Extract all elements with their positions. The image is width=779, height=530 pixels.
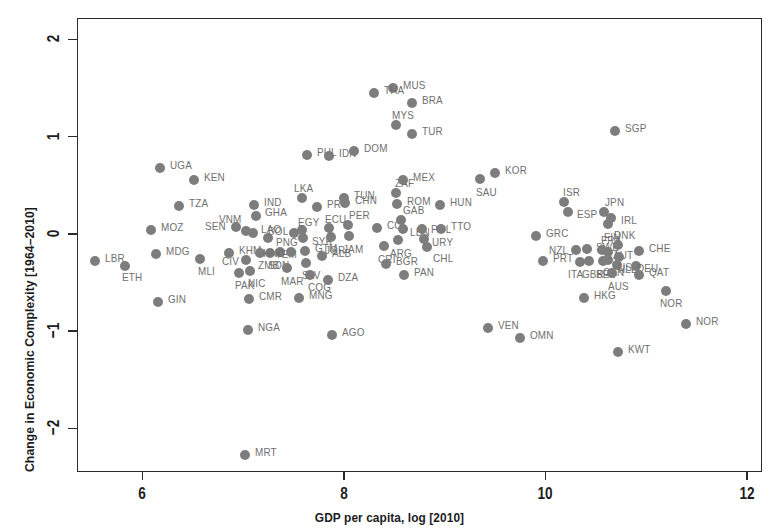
scatter-point[interactable] — [294, 293, 304, 303]
scatter-point[interactable] — [240, 450, 250, 460]
scatter-point-label: GRC — [546, 228, 568, 240]
scatter-point[interactable] — [195, 254, 205, 264]
scatter-point[interactable] — [301, 258, 311, 268]
scatter-point[interactable] — [606, 213, 616, 223]
scatter-point[interactable] — [340, 198, 350, 208]
scatter-point-label: MEX — [413, 172, 435, 184]
scatter-point[interactable] — [422, 242, 432, 252]
scatter-point[interactable] — [349, 146, 359, 156]
scatter-point[interactable] — [297, 193, 307, 203]
scatter-point[interactable] — [327, 330, 337, 340]
scatter-point[interactable] — [151, 249, 161, 259]
scatter-point-label: PAN — [414, 267, 434, 279]
scatter-point[interactable] — [344, 231, 354, 241]
scatter-point-label: LKA — [294, 183, 313, 195]
scatter-point[interactable] — [393, 235, 403, 245]
scatter-point[interactable] — [249, 200, 259, 210]
scatter-point[interactable] — [584, 256, 594, 266]
scatter-point-label: URY — [432, 237, 453, 249]
scatter-point[interactable] — [286, 247, 296, 257]
scatter-point[interactable] — [120, 261, 130, 271]
scatter-point[interactable] — [174, 201, 184, 211]
scatter-point[interactable] — [300, 246, 310, 256]
scatter-point-label: CHE — [649, 243, 670, 255]
scatter-point[interactable] — [661, 286, 671, 296]
scatter-point[interactable] — [251, 211, 261, 221]
scatter-point[interactable] — [189, 175, 199, 185]
x-tick-mark — [343, 472, 344, 480]
y-tick-label: 0 — [45, 225, 62, 241]
scatter-point-label: KEN — [204, 172, 225, 184]
scatter-point[interactable] — [634, 270, 644, 280]
scatter-point[interactable] — [298, 233, 308, 243]
scatter-point[interactable] — [559, 197, 569, 207]
scatter-point[interactable] — [563, 207, 573, 217]
scatter-point[interactable] — [90, 256, 100, 266]
y-tick-label: −1 — [45, 323, 62, 339]
scatter-point[interactable] — [155, 163, 165, 173]
scatter-point[interactable] — [146, 225, 156, 235]
scatter-point[interactable] — [407, 129, 417, 139]
scatter-point-label: VNM — [219, 214, 241, 226]
scatter-point[interactable] — [244, 294, 254, 304]
scatter-point[interactable] — [241, 255, 251, 265]
scatter-point[interactable] — [483, 323, 493, 333]
scatter-point[interactable] — [245, 266, 255, 276]
scatter-point[interactable] — [399, 270, 409, 280]
scatter-point[interactable] — [436, 224, 446, 234]
scatter-point[interactable] — [248, 228, 258, 238]
scatter-point[interactable] — [613, 347, 623, 357]
scatter-point[interactable] — [153, 297, 163, 307]
scatter-point[interactable] — [531, 231, 541, 241]
scatter-point[interactable] — [312, 202, 322, 212]
scatter-point[interactable] — [379, 241, 389, 251]
scatter-point[interactable] — [582, 244, 592, 254]
scatter-point-label: MRT — [255, 447, 277, 459]
scatter-point-label: MAR — [281, 276, 303, 288]
scatter-point[interactable] — [579, 293, 589, 303]
scatter-point[interactable] — [435, 200, 445, 210]
scatter-point-label: PER — [349, 210, 370, 222]
scatter-point[interactable] — [398, 224, 408, 234]
scatter-point[interactable] — [234, 268, 244, 278]
scatter-point[interactable] — [610, 126, 620, 136]
scatter-point-label: MLI — [198, 266, 215, 278]
scatter-point[interactable] — [282, 263, 292, 273]
y-tick-label: 1 — [45, 128, 62, 144]
scatter-point[interactable] — [381, 259, 391, 269]
scatter-point-label: DZA — [338, 272, 358, 284]
scatter-point-label: EGY — [298, 217, 319, 229]
x-tick-mark — [545, 472, 546, 480]
scatter-point[interactable] — [326, 232, 336, 242]
scatter-point-label: OMN — [530, 330, 554, 342]
scatter-point[interactable] — [324, 151, 334, 161]
scatter-point[interactable] — [305, 270, 315, 280]
scatter-point[interactable] — [343, 220, 353, 230]
scatter-point[interactable] — [613, 240, 623, 250]
scatter-point-label: AGO — [342, 327, 365, 339]
scatter-point[interactable] — [634, 246, 644, 256]
scatter-point[interactable] — [372, 223, 382, 233]
scatter-point[interactable] — [323, 275, 333, 285]
scatter-point[interactable] — [391, 188, 401, 198]
scatter-point[interactable] — [369, 88, 379, 98]
scatter-point[interactable] — [392, 199, 402, 209]
scatter-point-label: GHA — [265, 207, 287, 219]
scatter-point-label: ARG — [390, 248, 412, 260]
scatter-point[interactable] — [571, 245, 581, 255]
scatter-point[interactable] — [417, 224, 427, 234]
scatter-point[interactable] — [681, 319, 691, 329]
scatter-point[interactable] — [243, 325, 253, 335]
scatter-point[interactable] — [391, 120, 401, 130]
scatter-point-label: SAU — [476, 187, 497, 199]
scatter-point[interactable] — [302, 150, 312, 160]
scatter-point-label: CHN — [355, 195, 377, 207]
scatter-point[interactable] — [475, 174, 485, 184]
scatter-point[interactable] — [515, 333, 525, 343]
scatter-point-label: KWT — [628, 344, 650, 356]
scatter-point[interactable] — [398, 175, 408, 185]
scatter-point[interactable] — [490, 168, 500, 178]
scatter-point[interactable] — [538, 256, 548, 266]
scatter-point[interactable] — [407, 98, 417, 108]
scatter-point-label: IRL — [621, 215, 637, 227]
